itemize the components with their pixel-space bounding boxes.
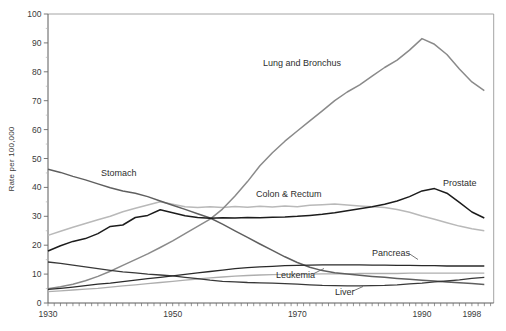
- cancer-death-rates-chart: Rate per 100,000 19301950197019901998010…: [0, 0, 506, 331]
- y-axis-tick-label: 100: [27, 9, 41, 19]
- y-axis-tick-label: 30: [32, 211, 42, 221]
- x-axis-tick-label: 1950: [163, 309, 182, 319]
- x-axis-tick-label: 1930: [39, 309, 58, 319]
- y-axis-tick-label: 20: [32, 240, 42, 250]
- series-label-pancreas: Pancreas: [372, 248, 411, 258]
- series-line-lung-and-bronchus: [48, 39, 484, 289]
- y-axis-tick-label: 80: [32, 67, 42, 77]
- y-axis-tick-label: 10: [32, 269, 42, 279]
- series-label-liver: Liver: [335, 287, 355, 297]
- series-label-leader-pancreas: [409, 254, 418, 260]
- x-axis-tick-label: 1970: [288, 309, 307, 319]
- series-label-lung-and-bronchus: Lung and Bronchus: [263, 58, 342, 68]
- series-line-pancreas: [48, 265, 484, 290]
- y-axis-tick-label: 40: [32, 182, 42, 192]
- y-axis-tick-label: 0: [37, 298, 42, 308]
- line-chart-canvas: 1930195019701990199801020304050607080901…: [0, 0, 506, 331]
- y-axis-tick-label: 60: [32, 125, 42, 135]
- x-axis-tick-label: 1998: [462, 309, 481, 319]
- series-label-colon-rectum: Colon & Rectum: [256, 189, 322, 199]
- series-line-colon-rectum: [48, 202, 484, 236]
- y-axis-tick-label: 90: [32, 38, 42, 48]
- series-label-leukemia: Leukemia: [276, 270, 315, 280]
- x-axis-tick-label: 1990: [413, 309, 432, 319]
- y-axis-tick-label: 50: [32, 154, 42, 164]
- y-axis-title: Rate per 100,000: [7, 126, 16, 191]
- series-label-prostate: Prostate: [443, 178, 477, 188]
- series-label-stomach: Stomach: [101, 168, 137, 178]
- y-axis-tick-label: 70: [32, 96, 42, 106]
